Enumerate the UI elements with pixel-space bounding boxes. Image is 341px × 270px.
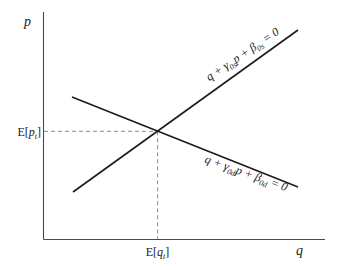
x-axis-label: q: [296, 243, 303, 259]
diagram-canvas: [0, 0, 341, 270]
expected-quantity-label: E[qt]: [139, 245, 176, 261]
price-variable: p: [29, 125, 35, 139]
quantity-time-subscript: t: [163, 252, 165, 261]
expected-price-operator: E[: [17, 125, 28, 139]
expected-quantity-operator: E[: [146, 245, 157, 259]
expected-price-label: E[pt]: [6, 125, 41, 141]
supply-demand-diagram: p q E[pt] E[qt] q + γ0sp + β0s = 0 q + γ…: [0, 0, 341, 270]
price-time-subscript: t: [35, 132, 37, 141]
expected-quantity-bracket: ]: [165, 245, 169, 259]
y-axis-label: p: [24, 14, 31, 30]
expected-price-bracket: ]: [37, 125, 41, 139]
